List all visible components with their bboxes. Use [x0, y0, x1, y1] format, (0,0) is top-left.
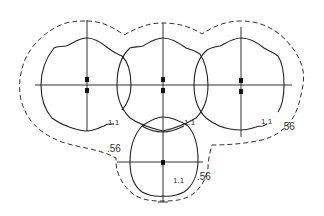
bottom-left-outer-label: .56 — [107, 144, 121, 154]
right-fixture-marker-lower — [239, 89, 243, 94]
bottom-fixture-marker — [161, 160, 165, 165]
bottom-right-outer-label: .56 — [197, 172, 211, 182]
middle-fixture-marker-upper — [161, 77, 165, 82]
right-outer-label: .56 — [281, 122, 295, 132]
right-inner-label: 1.1 — [261, 118, 272, 126]
middle-fixture-marker-lower — [161, 88, 165, 93]
bottom-inner-contour — [130, 117, 198, 196]
left-fixture-marker-lower — [85, 88, 89, 93]
left-inner-label: 1.1 — [108, 119, 119, 127]
outer-dashed-contour — [20, 21, 304, 201]
left-fixture-marker-upper — [85, 77, 89, 82]
isofootcandle-diagram — [0, 0, 324, 216]
right-fixture-marker-upper — [239, 78, 243, 83]
bottom-inner-label: 1.1 — [173, 177, 184, 185]
middle-inner-label: 1.1 — [184, 119, 195, 127]
